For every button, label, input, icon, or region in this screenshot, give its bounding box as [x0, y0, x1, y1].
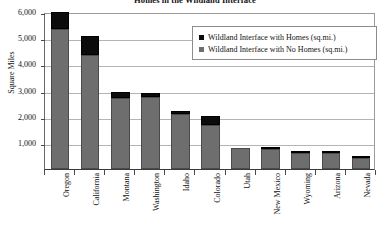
x-tick-label: Nevada: [363, 173, 372, 233]
x-tick-mark: [375, 170, 376, 175]
bar-segment-no-homes[interactable]: [111, 98, 130, 169]
legend-swatch-icon: [199, 47, 204, 52]
x-tick-label: Arizona: [333, 173, 342, 233]
chart-figure: Homes in the Wildland Interface Square M…: [0, 0, 390, 235]
x-tick-label: Washington: [152, 173, 161, 233]
bar-segment-no-homes[interactable]: [141, 97, 160, 169]
bar-segment-no-homes[interactable]: [51, 29, 70, 169]
chart-legend: Wildland Interface with Homes (sq.mi.)Wi…: [192, 26, 377, 60]
x-tick-label: Colorado: [213, 173, 222, 233]
x-tick-label: California: [92, 173, 101, 233]
bar-segment-with-homes[interactable]: [322, 151, 341, 153]
legend-item[interactable]: Wildland Interface with Homes (sq.mi.): [199, 31, 371, 43]
legend-label: Wildland Interface with Homes (sq.mi.): [208, 33, 336, 42]
legend-swatch-icon: [199, 35, 204, 40]
bar-segment-no-homes[interactable]: [81, 55, 100, 169]
bar-group[interactable]: [81, 14, 100, 169]
bar-segment-no-homes[interactable]: [261, 149, 280, 169]
bar-segment-with-homes[interactable]: [352, 156, 371, 158]
bar-group[interactable]: [111, 14, 130, 169]
bar-segment-no-homes[interactable]: [291, 153, 310, 169]
bar-segment-no-homes[interactable]: [201, 125, 220, 169]
bar-segment-with-homes[interactable]: [81, 36, 100, 56]
x-tick-label: Montana: [122, 173, 131, 233]
y-tick-label: 1,000: [6, 140, 36, 148]
legend-item[interactable]: Wildland Interface with No Homes (sq.mi.…: [199, 43, 371, 55]
bar-segment-with-homes[interactable]: [261, 147, 280, 150]
legend-label: Wildland Interface with No Homes (sq.mi.…: [208, 45, 347, 54]
bar-segment-no-homes[interactable]: [322, 153, 341, 169]
bar-segment-no-homes[interactable]: [231, 148, 250, 169]
bar-group[interactable]: [51, 14, 70, 169]
x-tick-label: Idaho: [182, 173, 191, 233]
bar-segment-no-homes[interactable]: [352, 158, 371, 170]
y-tick-label: 5,000: [6, 35, 36, 43]
x-tick-label: Utah: [243, 173, 252, 233]
bar-segment-with-homes[interactable]: [51, 12, 70, 29]
y-axis-tick-labels: 6,0005,0004,0003,0002,0001,000: [0, 0, 36, 235]
y-tick-label: 3,000: [6, 88, 36, 96]
bar-group[interactable]: [141, 14, 160, 169]
y-tick-label: 6,000: [6, 9, 36, 17]
y-tick-label: 4,000: [6, 61, 36, 69]
bar-group[interactable]: [171, 14, 190, 169]
bar-segment-with-homes[interactable]: [141, 93, 160, 97]
x-tick-label: Wyoming: [303, 173, 312, 233]
bar-segment-with-homes[interactable]: [291, 151, 310, 153]
bar-segment-with-homes[interactable]: [171, 111, 190, 114]
x-tick-label: Oregon: [62, 173, 71, 233]
x-tick-label: New Mexico: [273, 173, 282, 233]
x-axis-category-labels: OregonCaliforniaMontanaWashingtonIdahoCo…: [44, 175, 375, 235]
bar-segment-with-homes[interactable]: [201, 116, 220, 125]
y-tick-label: 2,000: [6, 114, 36, 122]
bar-segment-with-homes[interactable]: [111, 92, 130, 99]
chart-title: Homes in the Wildland Interface: [0, 0, 390, 5]
bar-segment-no-homes[interactable]: [171, 114, 190, 169]
